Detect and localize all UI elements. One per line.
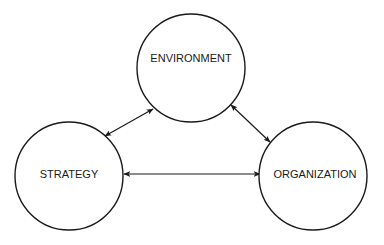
node-strategy: STRATEGY <box>15 122 123 230</box>
edge-environment-organization <box>231 105 270 142</box>
relationship-diagram: ENVIRONMENT STRATEGY ORGANIZATION <box>0 0 384 245</box>
edge-environment-strategy <box>105 109 153 136</box>
environment-circle <box>137 14 245 122</box>
bidirectional-arrow-icon <box>231 105 270 142</box>
organization-label: ORGANIZATION <box>274 168 357 180</box>
environment-label: ENVIRONMENT <box>150 52 232 64</box>
node-environment: ENVIRONMENT <box>137 14 245 122</box>
node-organization: ORGANIZATION <box>259 122 367 230</box>
strategy-label: STRATEGY <box>40 168 99 180</box>
bidirectional-arrow-icon <box>105 109 153 136</box>
